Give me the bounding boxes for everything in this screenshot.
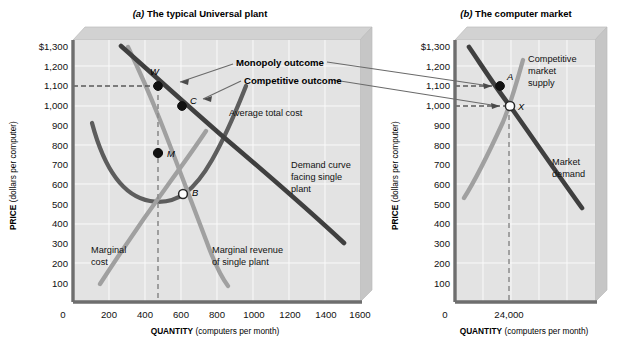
x-tick: 1000 <box>243 309 264 320</box>
y-tick: 800 <box>434 140 450 151</box>
x-tick: 1200 <box>279 309 300 320</box>
point-B-label: B <box>192 187 198 198</box>
y-tick: $1,300 <box>421 41 450 52</box>
svg-text:Marginal: Marginal <box>91 245 126 255</box>
point-M-label: M <box>167 148 175 159</box>
y-tick: 300 <box>52 238 68 249</box>
y-tick: 400 <box>52 218 68 229</box>
y-tick: 300 <box>434 238 450 249</box>
y-tick: 700 <box>434 159 450 170</box>
y-tick: 800 <box>52 140 68 151</box>
average-total-cost-label: Average total cost <box>229 108 303 118</box>
panel-b-x-axis-title: QUANTITY (computers per month) <box>460 326 589 336</box>
panel-b-title: (b) The computer market <box>460 8 572 19</box>
y-tick: 900 <box>52 120 68 131</box>
monopoly-outcome-callout: Monopoly outcome <box>236 57 324 68</box>
y-tick: 900 <box>434 120 450 131</box>
point-X-label: X <box>517 101 525 112</box>
svg-text:plant: plant <box>291 184 311 194</box>
svg-text:Demand curve: Demand curve <box>291 160 351 170</box>
panel-a-title: (a) The typical Universal plant <box>133 8 268 19</box>
svg-text:supply: supply <box>528 78 555 88</box>
svg-text:demand: demand <box>552 169 585 179</box>
y-tick: 1,200 <box>44 61 68 72</box>
svg-text:Competitive: Competitive <box>528 54 577 64</box>
point-C <box>178 102 187 111</box>
point-W <box>154 82 163 91</box>
y-tick: 600 <box>52 179 68 190</box>
svg-text:cost: cost <box>91 257 108 267</box>
x-tick: 1600 <box>349 309 370 320</box>
y-tick: 1,200 <box>426 61 450 72</box>
x-tick: 24,000 <box>494 309 523 320</box>
competitive-outcome-callout: Competitive outcome <box>244 75 342 86</box>
point-A <box>496 82 505 91</box>
point-W-label: W <box>150 66 160 77</box>
panel-a-top-face <box>73 27 372 40</box>
panel-a-y-axis-title: PRICE (dollars per computer) <box>8 121 18 230</box>
x-tick: 0 <box>60 309 65 320</box>
panel-a-y-ticks: $1,300 1,200 1,100 1,000 900 800 700 600… <box>39 41 68 289</box>
panel-b-y-axis-title: PRICE (dollars per computer) <box>390 121 400 230</box>
x-tick: 0 <box>442 309 447 320</box>
point-X <box>505 101 514 110</box>
panel-b-x-ticks: 0 24,000 <box>442 309 523 320</box>
panel-b: A X $1,300 1,200 1,100 1,000 900 800 700… <box>390 8 607 336</box>
y-tick: 1,100 <box>44 80 68 91</box>
x-tick: 600 <box>173 309 189 320</box>
x-tick: 800 <box>209 309 225 320</box>
figure-root: W C M B $1,300 1,200 1,100 1,000 900 800… <box>0 0 622 342</box>
point-B <box>179 190 188 199</box>
y-tick: 700 <box>52 159 68 170</box>
point-M <box>153 148 162 157</box>
x-tick: 1400 <box>315 309 336 320</box>
svg-text:Marginal revenue: Marginal revenue <box>212 245 283 255</box>
y-tick: 1,000 <box>426 100 450 111</box>
y-tick: 400 <box>434 218 450 229</box>
y-tick: 100 <box>434 278 450 289</box>
y-tick: 500 <box>434 199 450 210</box>
y-tick: 1,100 <box>426 80 450 91</box>
y-tick: 500 <box>52 199 68 210</box>
x-tick: 200 <box>101 309 117 320</box>
y-tick: 200 <box>52 258 68 269</box>
svg-text:facing single: facing single <box>291 172 342 182</box>
y-tick: 200 <box>434 258 450 269</box>
svg-text:of single plant: of single plant <box>212 257 269 267</box>
y-tick: 1,000 <box>44 100 68 111</box>
y-tick: 100 <box>52 278 68 289</box>
economics-figure: W C M B $1,300 1,200 1,100 1,000 900 800… <box>0 0 622 342</box>
y-tick: 600 <box>434 179 450 190</box>
svg-text:market: market <box>528 66 557 76</box>
svg-text:Market: Market <box>552 157 581 167</box>
point-A-label: A <box>506 71 513 82</box>
panel-a-x-axis-title: QUANTITY (computers per month) <box>151 326 280 336</box>
x-tick: 400 <box>137 309 153 320</box>
panel-b-right-face <box>595 27 607 302</box>
panel-b-top-face <box>455 27 607 40</box>
panel-a-x-ticks: 0 200 400 600 800 1000 1200 1400 1600 <box>60 309 370 320</box>
point-C-label: C <box>190 95 197 106</box>
y-tick: $1,300 <box>39 41 68 52</box>
